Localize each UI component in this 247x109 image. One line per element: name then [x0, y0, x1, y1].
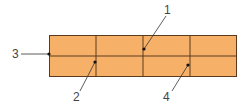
grid-panel: [50, 36, 237, 77]
callout-3-dot: [47, 52, 50, 55]
callout-1-dot: [142, 47, 145, 50]
callout-4-label: 4: [163, 90, 170, 104]
callout-2-label: 2: [73, 90, 80, 104]
callout-1-label: 1: [164, 3, 171, 17]
diagram-canvas: 1 2 3 4: [0, 0, 247, 109]
callout-3-label: 3: [12, 47, 19, 61]
callout-4-dot: [186, 63, 189, 66]
callout-2-dot: [93, 60, 96, 63]
callout-3: 3: [12, 47, 51, 61]
